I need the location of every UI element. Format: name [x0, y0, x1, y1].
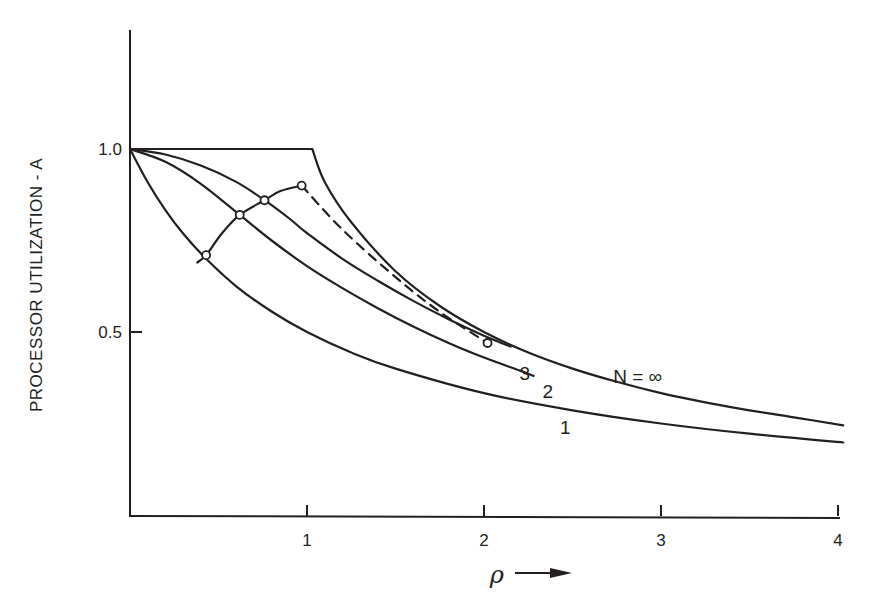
x-tick-label: 1 — [302, 531, 311, 550]
x-tick-label: 3 — [656, 531, 665, 550]
curve-label-n-inf: N = ∞ — [613, 366, 662, 387]
data-point-marker — [484, 339, 492, 347]
curve-n-2 — [130, 149, 534, 376]
y-tick-label: 1.0 — [98, 140, 122, 159]
curve-n-1 — [130, 149, 843, 443]
y-axis-title: PROCESSOR UTILIZATION - A — [27, 158, 46, 412]
x-tick-label: 4 — [833, 531, 842, 550]
labels: PROCESSOR UTILIZATION - A ρ N = ∞321 — [27, 158, 662, 589]
x-axis — [129, 516, 840, 518]
x-axis-title: ρ — [489, 561, 505, 589]
data-point-marker — [261, 196, 269, 204]
x-axis-arrow-icon — [515, 568, 572, 578]
curve-label-n-1: 1 — [560, 417, 571, 438]
ticks: 12341.00.5 — [98, 140, 842, 550]
x-tick-label: 2 — [479, 531, 488, 550]
curve-n-3 — [130, 149, 511, 347]
axes — [129, 30, 840, 518]
curve-label-n-3: 3 — [519, 363, 530, 384]
data-point-marker — [298, 182, 306, 190]
y-tick-label: 0.5 — [98, 323, 122, 342]
curve-label-n-2: 2 — [542, 381, 553, 402]
markers — [202, 182, 491, 347]
data-point-marker — [236, 211, 244, 219]
data-point-marker — [202, 251, 210, 259]
curves — [130, 149, 843, 443]
chart: 12341.00.5 PROCESSOR UTILIZATION - A ρ N… — [0, 0, 891, 616]
